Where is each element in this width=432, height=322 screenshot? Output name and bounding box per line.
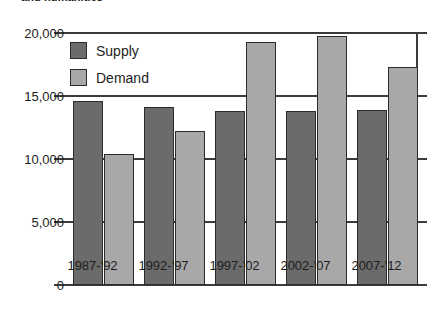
y-axis-tick-mark <box>418 284 427 286</box>
bar-demand[interactable] <box>246 42 276 285</box>
legend-item-demand[interactable]: Demand <box>70 66 149 89</box>
bar-group <box>347 33 418 285</box>
x-axis-tick-label: 2007-'12 <box>351 258 401 273</box>
legend-swatch-supply <box>70 42 87 59</box>
bar-group <box>276 33 347 285</box>
bar-demand[interactable] <box>317 36 347 285</box>
y-axis-tick-label: 5,000 <box>31 215 64 230</box>
y-axis-tick-label: 10,000 <box>24 152 64 167</box>
y-axis-tick-mark <box>418 32 427 34</box>
x-axis-tick-label: 1987-'92 <box>67 258 117 273</box>
x-axis-tick-label: 2002-'07 <box>280 258 330 273</box>
chart-title: and humanities <box>21 0 103 3</box>
y-axis-tick-label: 20,000 <box>24 26 64 41</box>
legend-item-supply[interactable]: Supply <box>70 39 149 62</box>
x-axis-tick-label: 1992-'97 <box>138 258 188 273</box>
bar-group <box>205 33 276 285</box>
x-axis-tick-label: 1997-'02 <box>209 258 259 273</box>
legend-label: Supply <box>96 43 139 59</box>
legend-swatch-demand <box>70 69 87 86</box>
legend-label: Demand <box>96 70 149 86</box>
y-axis-tick-mark <box>418 221 427 223</box>
bar-demand[interactable] <box>388 67 418 285</box>
y-axis-tick-mark <box>418 95 427 97</box>
chart-legend: SupplyDemand <box>70 39 149 93</box>
y-axis-tick-label: 0 <box>57 278 64 293</box>
y-axis-tick-label: 15,000 <box>24 89 64 104</box>
y-axis-tick-mark <box>418 158 427 160</box>
chart-page: and humanities 05,00010,00015,00020,000 … <box>0 0 432 322</box>
